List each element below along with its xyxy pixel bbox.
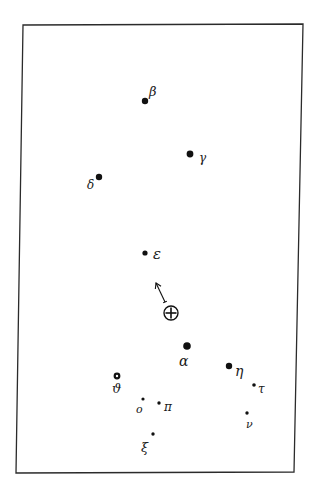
star-gamma-icon: [187, 151, 194, 158]
star-label-theta: ϑ: [112, 381, 121, 396]
star-ring-center: [116, 375, 118, 377]
star-xi-icon: [151, 432, 154, 435]
earth-symbol: [164, 306, 178, 320]
star-label-xi: ξ: [141, 440, 149, 455]
star-label-upsilon: ν: [246, 418, 253, 431]
arrow-tail-tick: [163, 301, 167, 303]
star-upsilon-icon: [245, 411, 248, 414]
star-label-delta: δ: [87, 178, 94, 192]
star-labels-layer: βγδεαητνϑοπξ: [87, 84, 265, 455]
star-label-eta: η: [235, 363, 244, 379]
star-label-omicron: ο: [136, 403, 143, 416]
star-pi-icon: [157, 401, 160, 404]
star-alpha-icon: [183, 342, 191, 350]
star-epsilon-icon: [142, 250, 147, 255]
star-label-pi: π: [163, 400, 173, 414]
star-label-beta: β: [148, 84, 157, 99]
star-omicron-icon: [141, 397, 144, 400]
star-chart-diagram: βγδεαητνϑοπξ: [0, 0, 313, 499]
star-label-tau: τ: [258, 382, 265, 396]
star-label-gamma: γ: [199, 151, 207, 165]
star-tau-icon: [252, 383, 256, 387]
star-beta-icon: [142, 98, 148, 104]
star-label-epsilon: ε: [153, 245, 161, 263]
star-eta-icon: [226, 363, 232, 369]
star-label-alpha: α: [179, 353, 189, 369]
motion-arrow-icon: [155, 283, 166, 303]
star-delta-icon: [96, 174, 102, 180]
